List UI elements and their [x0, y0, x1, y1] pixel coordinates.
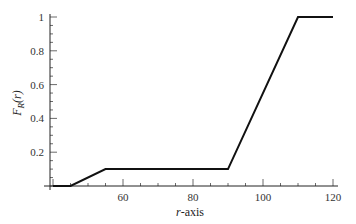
x-tick-label: 60 — [118, 191, 130, 203]
cdf-line — [53, 17, 333, 186]
y-axis-ticks: 0.20.40.60.81 — [30, 11, 57, 186]
x-tick-label: 120 — [325, 191, 342, 203]
y-tick-label: 0.4 — [30, 112, 44, 124]
cdf-chart: 6080100120 0.20.40.60.81 r-axis FR(r) — [0, 0, 356, 224]
y-tick-label: 0.6 — [30, 79, 44, 91]
y-axis-label: FR(r) — [10, 90, 26, 117]
x-axis-label: r-axis — [176, 205, 204, 219]
y-tick-label: 1 — [39, 11, 45, 23]
y-tick-label: 0.8 — [30, 45, 44, 57]
x-tick-label: 80 — [188, 191, 200, 203]
y-tick-label: 0.2 — [30, 146, 44, 158]
x-axis-ticks: 6080100120 — [53, 179, 342, 203]
x-tick-label: 100 — [255, 191, 272, 203]
